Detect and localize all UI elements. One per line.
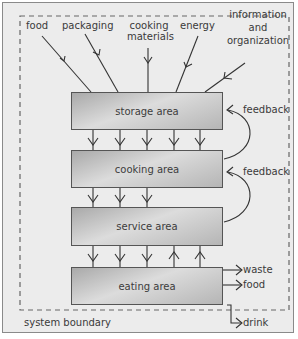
input-label-food: food bbox=[26, 20, 48, 31]
output-label-waste: waste bbox=[243, 264, 273, 275]
feedback-label-1: feedback bbox=[243, 104, 289, 115]
input-label-line: organization bbox=[226, 34, 290, 47]
storage-area-label: storage area bbox=[115, 106, 178, 117]
output-label-drink: drink bbox=[243, 317, 268, 328]
input-label-energy: energy bbox=[180, 20, 215, 31]
storage-area-box: storage area bbox=[71, 92, 223, 130]
food-system-diagram: food packaging cooking materials energy … bbox=[0, 0, 298, 339]
cooking-area-box: cooking area bbox=[71, 150, 223, 188]
eating-area-label: eating area bbox=[118, 281, 175, 292]
flow-cooking-service bbox=[88, 188, 152, 207]
feedback-loops bbox=[224, 105, 250, 222]
input-label-packaging: packaging bbox=[62, 20, 114, 31]
cooking-area-label: cooking area bbox=[115, 164, 179, 175]
output-label-food: food bbox=[243, 279, 265, 290]
input-label-line: materials bbox=[127, 31, 171, 42]
flow-storage-cooking bbox=[88, 130, 205, 150]
input-label-line: and bbox=[226, 21, 290, 34]
service-area-label: service area bbox=[116, 221, 177, 232]
feedback-label-2: feedback bbox=[243, 166, 289, 177]
eating-area-box: eating area bbox=[71, 267, 223, 305]
flow-service-eating bbox=[88, 246, 205, 267]
service-area-box: service area bbox=[71, 207, 223, 246]
input-arrows bbox=[42, 34, 245, 92]
input-label-line: cooking bbox=[127, 20, 171, 31]
system-boundary-label: system boundary bbox=[24, 317, 111, 328]
input-label-cooking-materials: cooking materials bbox=[127, 20, 171, 42]
output-arrows bbox=[223, 265, 242, 328]
input-label-line: information bbox=[226, 8, 290, 21]
input-label-information-organization: information and organization bbox=[226, 8, 290, 47]
